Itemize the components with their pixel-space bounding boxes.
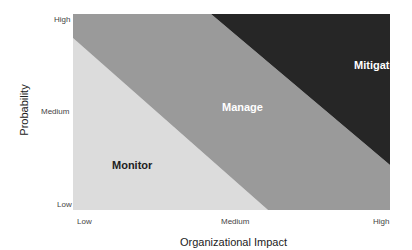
zone-label-manage: Manage <box>222 101 263 113</box>
zone-label-monitor: Monitor <box>112 159 152 171</box>
y-tick-low: Low <box>57 200 72 209</box>
x-tick-medium: Medium <box>221 217 249 226</box>
y-tick-medium: Medium <box>41 107 69 116</box>
zone-label-mitigate: Mitigate <box>354 59 396 71</box>
x-axis-title: Organizational Impact <box>180 236 287 248</box>
y-tick-high: High <box>54 15 70 24</box>
y-axis-title: Probability <box>18 79 30 141</box>
x-tick-high: High <box>373 217 389 226</box>
x-tick-low: Low <box>77 217 92 226</box>
risk-matrix-plot: Mitigate Manage Monitor <box>73 14 390 210</box>
